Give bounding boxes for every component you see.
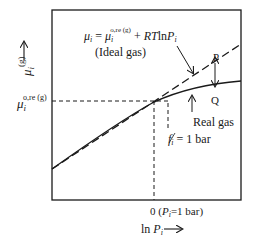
y-reference-label: μio,re (g) [16, 93, 47, 113]
real-gas-label: Real gas [193, 115, 234, 129]
ideal-gas-label: (Ideal gas) [95, 45, 146, 59]
svg-text:μi(g): μi(g) [16, 56, 36, 77]
y-axis-label: μi(g) [16, 56, 36, 77]
point-q-label: Q [211, 94, 219, 106]
ideal-gas-equation: μi = μio,re (g) + RTlnPi [83, 26, 177, 44]
point-p-label: P [213, 51, 219, 63]
equation-pointer-arrow [177, 46, 193, 73]
chemical-potential-diagram: μi(g) μio,re (g) μi = μio,re (g) + RTlnP… [0, 0, 255, 244]
x-zero-label: 0 (Pi=1 bar) [150, 205, 203, 219]
x-axis-label: ln Pi [141, 222, 163, 237]
